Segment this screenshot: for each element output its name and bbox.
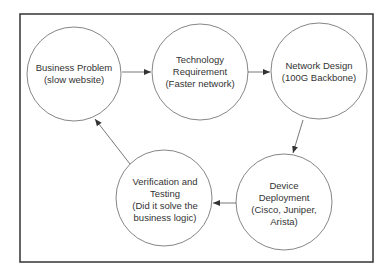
label-line: (Faster network): [156, 78, 244, 90]
edge-3-4: [293, 120, 303, 153]
label-technology-requirement: Technology Requirement (Faster network): [156, 54, 244, 90]
label-line: Requirement: [156, 66, 244, 78]
label-business-problem: Business Problem (slow website): [30, 62, 118, 86]
label-line: Technology: [156, 54, 244, 66]
label-line: (Cisco, Juniper,: [240, 204, 328, 216]
label-line: Business Problem: [30, 62, 118, 74]
label-line: business logic): [120, 212, 210, 224]
label-network-design: Network Design (100G Backbone): [273, 60, 365, 84]
label-line: (slow website): [30, 74, 118, 86]
label-line: Device: [240, 180, 328, 192]
label-line: Deployment: [240, 192, 328, 204]
label-line: Arista): [240, 216, 328, 228]
label-verification-testing: Verification and Testing (Did it solve t…: [120, 176, 210, 224]
diagram-canvas: [0, 0, 388, 275]
label-line: (Did it solve the: [120, 200, 210, 212]
label-line: Network Design: [273, 60, 365, 72]
label-device-deployment: Device Deployment (Cisco, Juniper, Arist…: [240, 180, 328, 228]
edge-5-1: [95, 119, 130, 164]
label-line: Testing: [120, 188, 210, 200]
label-line: (100G Backbone): [273, 72, 365, 84]
label-line: Verification and: [120, 176, 210, 188]
